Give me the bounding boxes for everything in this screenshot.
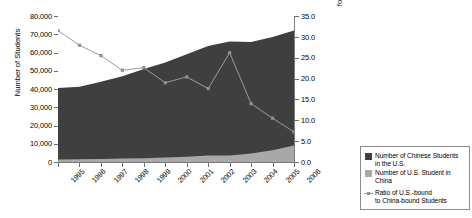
right-tick	[295, 120, 299, 121]
legend-item-us-students: Number of U.S. Student in China	[365, 169, 465, 184]
right-tick-label: 20.0	[301, 74, 331, 83]
legend-label-line1: Number of Chinese Students	[375, 152, 458, 159]
ratio-marker	[249, 102, 252, 105]
right-tick-label: 10.0	[301, 116, 331, 125]
legend-label-us-students: Number of U.S. Student in China	[375, 169, 465, 184]
x-tick	[79, 163, 80, 167]
legend-label-chinese-students: Number of Chinese Students in the U.S.	[375, 152, 458, 167]
right-tick	[295, 58, 299, 59]
plot-area	[58, 16, 294, 162]
x-tick-label: 1998	[133, 167, 151, 185]
x-tick-label: 1996	[90, 167, 108, 185]
x-tick	[165, 163, 166, 167]
right-tick	[295, 99, 299, 100]
legend-label-ratio: Ratio of U.S.-bound to China-bound Stude…	[375, 189, 447, 204]
right-axis-title-line2: for Each American Student in China	[335, 0, 345, 12]
left-tick-label: 50,000	[6, 66, 52, 75]
left-tick-label: 60,000	[6, 48, 52, 57]
legend-label-line2: in the U.S.	[375, 160, 405, 167]
x-tick-label: 2005	[283, 167, 301, 185]
left-tick-label: 80,000	[6, 12, 52, 21]
ratio-marker	[292, 130, 294, 133]
ratio-marker	[207, 87, 210, 90]
x-tick	[122, 163, 123, 167]
legend-item-chinese-students: Number of Chinese Students in the U.S.	[365, 152, 465, 167]
x-tick-label: 2002	[219, 167, 237, 185]
left-tick-label: 40,000	[6, 85, 52, 94]
legend-label-line2: to China-bound Students	[375, 197, 447, 204]
ratio-marker	[271, 117, 274, 120]
right-tick	[295, 16, 299, 17]
ratio-marker	[228, 51, 231, 54]
ratio-marker	[164, 81, 167, 84]
left-tick-label: 0	[6, 158, 52, 167]
chart-legend: Number of Chinese Students in the U.S. N…	[360, 146, 470, 210]
left-tick-label: 20,000	[6, 121, 52, 130]
line-marker-swatch-icon	[364, 190, 373, 197]
legend-item-ratio: Ratio of U.S.-bound to China-bound Stude…	[365, 189, 465, 204]
right-axis-title-line1: Number of Chinese Students in America	[316, 0, 335, 12]
x-tick	[58, 163, 59, 167]
area-chinese-students-in-us	[58, 31, 294, 162]
right-tick-label: 30.0	[301, 33, 331, 42]
right-tick	[295, 141, 299, 142]
light-square-swatch-icon	[365, 170, 372, 177]
right-tick-label: 0.0	[301, 158, 331, 167]
x-tick-label: 2004	[262, 167, 280, 185]
right-axis-line	[294, 16, 295, 163]
ratio-marker	[142, 66, 145, 69]
x-tick-label: 1997	[112, 167, 130, 185]
ratio-marker	[99, 54, 102, 57]
left-tick-label: 10,000	[6, 139, 52, 148]
right-tick-label: 25.0	[301, 53, 331, 62]
right-tick	[295, 37, 299, 38]
right-tick-label: 5.0	[301, 137, 331, 146]
x-tick-label: 2001	[197, 167, 215, 185]
chart-figure: Number of Students 010,00020,00030,00040…	[0, 0, 472, 218]
right-tick-label: 15.0	[301, 95, 331, 104]
x-tick	[101, 163, 102, 167]
legend-label-line1: Ratio of U.S.-bound	[375, 189, 432, 196]
x-tick	[273, 163, 274, 167]
right-axis-title: Number of Chinese Students in America fo…	[316, 0, 336, 12]
chart-canvas	[58, 16, 294, 162]
right-tick	[295, 162, 299, 163]
ratio-marker	[121, 69, 124, 72]
bottom-axis-line	[58, 162, 295, 163]
x-tick-label: 1995	[69, 167, 87, 185]
left-tick-label: 70,000	[6, 30, 52, 39]
x-tick	[294, 163, 295, 167]
x-tick-label: 1999	[155, 167, 173, 185]
x-tick	[144, 163, 145, 167]
x-tick-label: 2003	[240, 167, 258, 185]
x-tick	[230, 163, 231, 167]
ratio-marker	[58, 29, 60, 32]
dark-square-swatch-icon	[365, 153, 372, 160]
x-tick	[187, 163, 188, 167]
right-tick	[295, 79, 299, 80]
x-tick-label: 2006	[305, 167, 323, 185]
x-tick	[208, 163, 209, 167]
ratio-marker	[78, 44, 81, 47]
right-tick-label: 35.0	[301, 12, 331, 21]
x-tick-label: 2000	[176, 167, 194, 185]
ratio-marker	[185, 75, 188, 78]
left-axis-title: Number of Students	[13, 8, 22, 118]
left-tick-label: 30,000	[6, 103, 52, 112]
x-tick	[251, 163, 252, 167]
